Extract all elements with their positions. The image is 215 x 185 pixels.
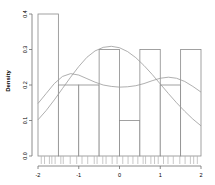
y-tick-label: 0.4 [22, 10, 28, 18]
y-axis-title-wrapper: Density [2, 0, 16, 185]
histogram-bar [140, 50, 160, 157]
histogram-bar [58, 85, 78, 156]
x-axis-ticks: -2-1012 [36, 166, 203, 178]
x-tick-label: -1 [76, 172, 81, 178]
chart-canvas: 0.00.10.20.30.4-2-1012 [0, 0, 215, 185]
y-tick-label: 0.1 [22, 117, 28, 125]
y-tick-label: 0.3 [22, 46, 28, 54]
y-tick-label: 0.0 [22, 152, 28, 160]
y-axis-title: Density [5, 49, 11, 113]
histogram-bar [99, 50, 119, 157]
y-tick-label: 0.2 [22, 81, 28, 89]
histogram-bar [120, 121, 140, 157]
rug-plot [41, 156, 197, 164]
histogram-density-plot: Density 0.00.10.20.30.4-2-1012 [0, 0, 215, 185]
histogram-bar [181, 50, 201, 157]
x-tick-label: 0 [118, 172, 121, 178]
histogram-bar [79, 85, 99, 156]
y-axis-ticks: 0.00.10.20.30.4 [22, 10, 32, 160]
x-tick-label: 1 [159, 172, 162, 178]
histogram-bars [38, 14, 201, 156]
x-tick-label: -2 [36, 172, 41, 178]
x-tick-label: 2 [199, 172, 202, 178]
histogram-bar [38, 14, 58, 156]
